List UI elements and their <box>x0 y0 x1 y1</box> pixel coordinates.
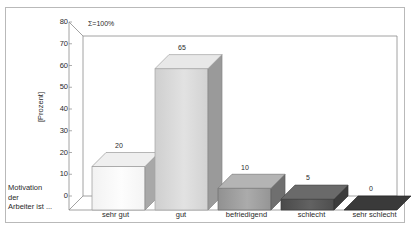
x-label-befriedigend: befriedigend <box>209 211 284 219</box>
y-axis-label: [Prozent] <box>36 92 45 122</box>
value-label-sehr-schlecht: 0 <box>356 185 386 192</box>
value-label-gut: 65 <box>167 44 197 51</box>
y-tick-10: 10 <box>48 170 68 178</box>
x-label-schlecht: schlecht <box>279 211 344 219</box>
x-label-gut: gut <box>151 211 211 219</box>
y-tick-50: 50 <box>48 83 68 91</box>
y-tick-30: 30 <box>48 127 68 135</box>
value-label-schlecht: 5 <box>293 174 323 181</box>
x-axis-caption: Motivation der Arbeiter ist ... <box>8 183 52 212</box>
y-tick-20: 20 <box>48 149 68 157</box>
bar-schlecht <box>281 185 348 210</box>
bar-sehr-schlecht <box>344 196 411 210</box>
bar-befriedigend <box>218 174 285 210</box>
value-label-befriedigend: 10 <box>230 164 260 171</box>
bar-sehr-gut <box>92 153 159 211</box>
x-axis-caption-line-2: der <box>8 193 52 203</box>
value-label-sehr-gut: 20 <box>104 142 134 149</box>
x-axis-caption-line-3: Arbeiter ist ... <box>8 202 52 212</box>
x-axis-caption-line-1: Motivation <box>8 183 52 193</box>
y-tick-70: 70 <box>48 40 68 48</box>
bar-gut <box>155 55 222 210</box>
sum-annotation: Σ=100% <box>88 20 114 27</box>
x-label-sehr-schlecht: sehr schlecht <box>337 211 411 219</box>
x-label-sehr-gut: sehr gut <box>83 211 148 219</box>
y-tick-60: 60 <box>48 62 68 70</box>
y-tick-80: 80 <box>48 18 68 26</box>
y-axis-ticks <box>69 22 72 196</box>
y-tick-40: 40 <box>48 105 68 113</box>
chart-container: 80 70 60 50 40 30 20 10 0 [Prozent] Σ=10… <box>0 0 411 231</box>
